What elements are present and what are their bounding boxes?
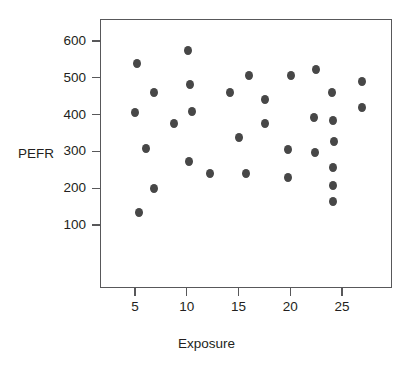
x-axis-tick-label: 5: [131, 300, 139, 314]
y-axis-tick-label: 500: [63, 71, 86, 85]
y-axis-tick-label: 600: [63, 34, 86, 48]
x-axis-tick-mark: [290, 288, 291, 296]
x-axis-title: Exposure: [0, 337, 413, 351]
y-axis-tick-mark: [92, 151, 100, 152]
x-axis-tick-mark: [134, 288, 135, 296]
y-axis-tick-mark: [92, 114, 100, 115]
x-axis-tick-label: 10: [179, 300, 194, 314]
y-axis-tick-mark: [92, 188, 100, 189]
x-axis-tick-mark: [238, 288, 239, 296]
y-axis-tick-label: 300: [63, 144, 86, 158]
y-axis-tick-label: 200: [63, 181, 86, 195]
y-axis-tick-mark: [92, 40, 100, 41]
x-axis-tick-label: 20: [283, 300, 298, 314]
x-axis-tick-mark: [341, 288, 342, 296]
x-axis-tick-mark: [186, 288, 187, 296]
plot-area-frame: [100, 19, 392, 288]
y-axis-tick-label: 100: [63, 218, 86, 232]
y-axis-tick-mark: [92, 224, 100, 225]
scatter-plot-figure: 100200300400500600 510152025 PEFR Exposu…: [0, 0, 413, 368]
y-axis-tick-mark: [92, 77, 100, 78]
x-axis-tick-label: 25: [334, 300, 349, 314]
x-axis-tick-label: 15: [231, 300, 246, 314]
y-axis-tick-label: 400: [63, 108, 86, 122]
y-axis-title: PEFR: [18, 147, 54, 161]
